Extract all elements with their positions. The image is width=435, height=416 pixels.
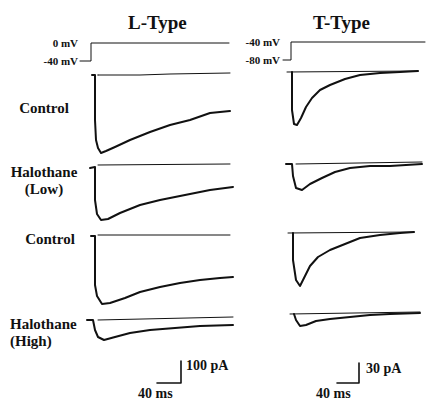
l-scale-current-label: 100 pA: [186, 358, 228, 374]
l-low-baseline: [98, 164, 230, 165]
panel-title-l-type: L-Type: [128, 12, 187, 34]
t-type-voltage-step: [283, 42, 425, 60]
l-scale-time-label: 40 ms: [138, 386, 173, 402]
l-high-baseline: [98, 317, 233, 320]
l-step-voltage-label: 0 mV: [10, 37, 78, 49]
t-low-trace: [286, 164, 422, 190]
l-type-traces: [87, 73, 233, 340]
l-control-baseline: [98, 73, 230, 75]
l-holding-voltage-label: -40 mV: [10, 55, 78, 67]
t-scale-current-label: 30 pA: [366, 361, 401, 377]
l-type-scale-bar: [157, 361, 181, 383]
l-control-trace: [92, 75, 230, 153]
panel-title-t-type: T-Type: [313, 12, 370, 34]
condition-label-control-2: Control: [14, 231, 86, 248]
t-holding-voltage-label: -80 mV: [224, 54, 280, 66]
condition-label-halothane-low: Halothane (Low): [4, 164, 84, 198]
t-control-trace: [292, 71, 418, 125]
condition-label-control-1: Control: [8, 100, 80, 117]
condition-label-halothane-high: Halothane (High): [10, 316, 90, 350]
t-type-traces: [286, 71, 422, 326]
t-step-voltage-label: -40 mV: [224, 36, 280, 48]
t-type-scale-bar: [337, 363, 359, 383]
l-high-trace: [87, 320, 233, 340]
t-scale-time-label: 40 ms: [316, 386, 351, 402]
l-control2-trace: [91, 236, 233, 304]
t-control2-trace: [293, 232, 414, 286]
t-high-trace: [294, 313, 420, 326]
l-type-voltage-step: [80, 43, 229, 61]
t-low-baseline: [296, 162, 422, 164]
l-low-trace: [90, 167, 233, 220]
